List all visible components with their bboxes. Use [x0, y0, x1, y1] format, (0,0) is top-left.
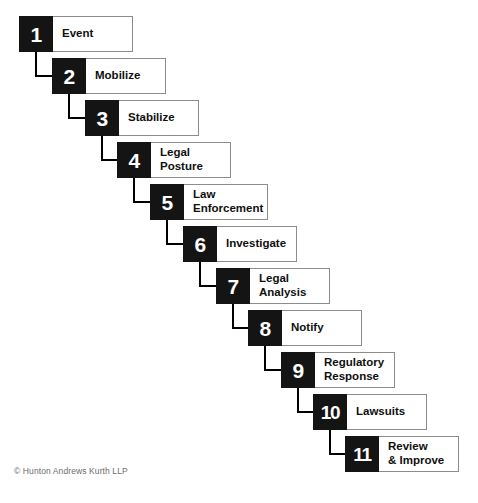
- flow-step[interactable]: 6Investigate: [183, 226, 297, 262]
- incident-response-flow-diagram: 1Event2Mobilize3Stabilize4LegalPosture5L…: [0, 0, 478, 503]
- step-label-box: Stabilize: [119, 100, 199, 136]
- connector-line-horizontal: [297, 411, 313, 413]
- step-label-line: Lawsuits: [356, 405, 422, 419]
- step-number-badge: 4: [117, 142, 151, 178]
- step-label-line: Review: [388, 440, 454, 454]
- connector-line-vertical: [101, 136, 103, 160]
- copyright-notice: © Hunton Andrews Kurth LLP: [14, 466, 128, 476]
- step-label-line: Investigate: [226, 237, 292, 251]
- flow-step[interactable]: 3Stabilize: [85, 100, 199, 136]
- step-number-badge: 8: [248, 310, 282, 346]
- step-number-badge: 3: [85, 100, 119, 136]
- step-label-line: Regulatory: [324, 356, 390, 370]
- connector-line-horizontal: [133, 201, 150, 203]
- connector-line-horizontal: [329, 453, 345, 455]
- flow-step[interactable]: 10Lawsuits: [313, 394, 427, 430]
- connector-line-horizontal: [35, 75, 52, 77]
- step-number-badge: 1: [19, 16, 53, 52]
- connector-line-vertical: [297, 388, 299, 412]
- connector-line-horizontal: [166, 243, 183, 245]
- connector-line-horizontal: [101, 159, 117, 161]
- flow-step[interactable]: 9RegulatoryResponse: [281, 352, 395, 388]
- step-label-box: Notify: [282, 310, 362, 346]
- connector-line-vertical: [166, 220, 168, 244]
- step-number-badge: 2: [52, 58, 86, 94]
- step-label-line: Mobilize: [95, 69, 161, 83]
- step-label-box: RegulatoryResponse: [315, 352, 395, 388]
- step-label-line: Stabilize: [128, 111, 194, 125]
- connector-line-horizontal: [199, 285, 216, 287]
- connector-line-horizontal: [232, 327, 248, 329]
- step-number-badge: 5: [150, 184, 184, 220]
- flow-step[interactable]: 5LawEnforcement: [150, 184, 266, 220]
- step-label-box: Lawsuits: [347, 394, 427, 430]
- step-label-line: & Improve: [388, 454, 454, 468]
- connector-line-horizontal: [68, 117, 85, 119]
- step-number-badge: 7: [216, 268, 250, 304]
- step-label-box: LawEnforcement: [184, 184, 268, 220]
- step-label-line: Legal: [259, 272, 325, 286]
- flow-step[interactable]: 2Mobilize: [52, 58, 166, 94]
- step-label-box: Mobilize: [86, 58, 166, 94]
- step-label-line: Analysis: [259, 286, 325, 300]
- step-label-box: LegalAnalysis: [250, 268, 330, 304]
- flow-step[interactable]: 4LegalPosture: [117, 142, 231, 178]
- step-label-box: Review& Improve: [379, 436, 459, 472]
- connector-line-vertical: [264, 346, 266, 370]
- step-label-box: Investigate: [217, 226, 297, 262]
- step-number-badge: 6: [183, 226, 217, 262]
- step-label-box: Event: [53, 16, 133, 52]
- step-label-line: Legal: [160, 146, 226, 160]
- flow-step[interactable]: 1Event: [19, 16, 133, 52]
- step-label-line: Law: [193, 188, 263, 202]
- step-label-line: Event: [62, 27, 128, 41]
- connector-line-vertical: [329, 430, 331, 454]
- connector-line-vertical: [133, 178, 135, 202]
- step-number-badge: 11: [345, 436, 379, 472]
- step-number-badge: 10: [313, 394, 347, 430]
- flow-step[interactable]: 7LegalAnalysis: [216, 268, 330, 304]
- connector-line-vertical: [199, 262, 201, 286]
- step-label-line: Notify: [291, 321, 357, 335]
- flow-step[interactable]: 11Review& Improve: [345, 436, 459, 472]
- step-label-line: Enforcement: [193, 202, 263, 216]
- flow-step[interactable]: 8Notify: [248, 310, 362, 346]
- connector-line-horizontal: [264, 369, 281, 371]
- step-number-badge: 9: [281, 352, 315, 388]
- step-label-line: Posture: [160, 160, 226, 174]
- connector-line-vertical: [35, 52, 37, 76]
- connector-line-vertical: [68, 94, 70, 118]
- connector-line-vertical: [232, 304, 234, 328]
- step-label-box: LegalPosture: [151, 142, 231, 178]
- step-label-line: Response: [324, 370, 390, 384]
